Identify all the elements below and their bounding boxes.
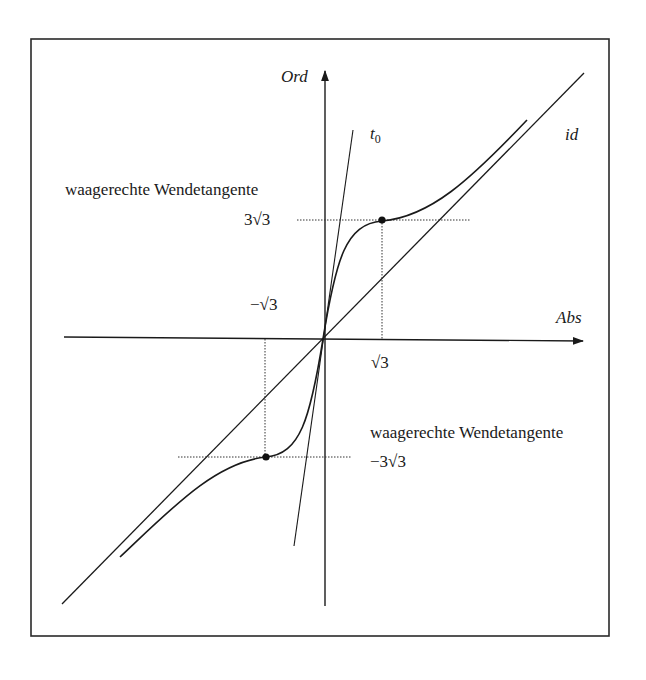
ord-axis-label: Ord bbox=[281, 68, 308, 85]
lower-inflection-point bbox=[262, 453, 269, 460]
t0-subscript: 0 bbox=[375, 132, 381, 146]
id-line-label: id bbox=[565, 126, 578, 143]
lower-annotation: waagerechte Wendetangente bbox=[370, 424, 563, 441]
y-value-negative: −3√3 bbox=[370, 453, 406, 470]
t0-line-label: t0 bbox=[370, 125, 381, 142]
x-value-negative: −√3 bbox=[250, 296, 277, 313]
x-value-positive: √3 bbox=[371, 354, 389, 371]
function-graph bbox=[0, 0, 646, 680]
upper-annotation: waagerechte Wendetangente bbox=[65, 181, 258, 198]
abs-axis-label: Abs bbox=[556, 309, 582, 326]
y-value-positive: 3√3 bbox=[244, 211, 270, 228]
upper-inflection-point bbox=[378, 216, 385, 223]
